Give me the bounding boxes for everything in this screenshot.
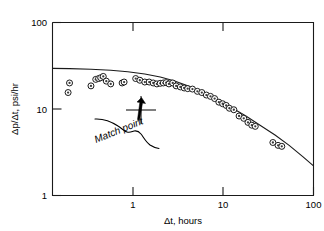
chart-figure: 100 10 1 1 10 100 Δt, hours Δp/Δt, psi/h… bbox=[0, 0, 324, 231]
data-point bbox=[252, 123, 258, 129]
log-log-plot: 100 10 1 1 10 100 Δt, hours Δp/Δt, psi/h… bbox=[0, 0, 324, 231]
data-point bbox=[231, 107, 237, 113]
x-tick-label-1: 1 bbox=[130, 199, 135, 210]
data-point bbox=[65, 90, 71, 96]
y-tick-label-100: 100 bbox=[31, 17, 47, 28]
x-tick-label-10: 10 bbox=[218, 199, 229, 210]
plot-frame bbox=[53, 23, 314, 196]
x-axis-ticks bbox=[133, 23, 314, 196]
y-tick-label-10: 10 bbox=[36, 104, 47, 115]
x-axis-title: Δt, hours bbox=[164, 215, 202, 226]
data-point bbox=[67, 80, 73, 86]
y-axis-ticks bbox=[53, 23, 62, 196]
y-tick-label-1: 1 bbox=[42, 190, 47, 201]
data-point bbox=[88, 83, 94, 89]
data-point bbox=[121, 79, 127, 85]
data-point bbox=[279, 143, 285, 149]
x-tick-label-100: 100 bbox=[306, 199, 322, 210]
data-point bbox=[108, 81, 114, 87]
y-axis-title: Δp/Δt, psi/hr bbox=[9, 83, 20, 135]
